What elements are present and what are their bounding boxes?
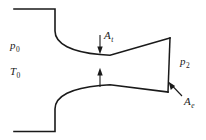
throat-upper-arrow-head: [97, 47, 102, 55]
label-throat-area: At: [104, 30, 113, 41]
exit-area-leader-shaft: [173, 86, 183, 96]
throat-lower-arrow-head: [97, 68, 102, 76]
throat-upper-dimension-arrow: [97, 35, 102, 54]
label-Ae-subscript: e: [191, 101, 194, 110]
label-p2-subscript: 2: [186, 61, 190, 70]
label-exit-pressure: p2: [180, 56, 189, 67]
label-T0-subscript: 0: [17, 71, 21, 80]
throat-lower-dimension-arrow: [97, 68, 102, 87]
lower-nozzle-wall: [14, 85, 168, 132]
upper-nozzle-wall: [14, 9, 170, 55]
label-Ae-symbol: A: [184, 95, 191, 107]
label-At-subscript: t: [111, 35, 113, 44]
label-p2-symbol: p: [180, 55, 186, 67]
label-p0-subscript: 0: [16, 45, 20, 54]
exit-area-leader-arrow: [169, 82, 182, 96]
exit-area-leader-head: [169, 82, 176, 90]
label-stagnation-temperature: T0: [10, 66, 20, 77]
label-T0-symbol: T: [10, 65, 16, 77]
label-stagnation-pressure: p0: [10, 40, 19, 51]
label-p0-symbol: p: [10, 39, 16, 51]
label-At-symbol: A: [104, 29, 111, 41]
nozzle-figure: p0 T0 At p2 Ae: [0, 0, 206, 140]
label-exit-area: Ae: [184, 96, 194, 107]
nozzle-drawing: [0, 0, 206, 140]
